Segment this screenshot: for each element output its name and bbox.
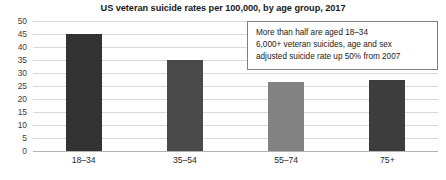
x-axis-tick-label: 75+ bbox=[337, 156, 438, 165]
y-axis-tick-label: 40 bbox=[18, 43, 27, 51]
bar bbox=[369, 80, 405, 152]
y-axis-tick-label: 5 bbox=[22, 134, 27, 142]
y-axis-tick-label: 20 bbox=[18, 95, 27, 103]
x-axis-tick-label: 18–34 bbox=[33, 156, 134, 165]
y-axis-tick-labels: 50454035302520151050 bbox=[0, 21, 31, 151]
bar bbox=[268, 82, 304, 151]
chart-title: US veteran suicide rates per 100,000, by… bbox=[0, 3, 446, 13]
x-axis-tick-label: 55–74 bbox=[236, 156, 337, 165]
annotation-line: 6,000+ veteran suicides, age and sex bbox=[256, 39, 430, 51]
bar bbox=[66, 34, 102, 151]
y-axis-tick-label: 45 bbox=[18, 30, 27, 38]
x-axis-tick-label: 35–54 bbox=[134, 156, 235, 165]
y-axis-tick-label: 35 bbox=[18, 56, 27, 64]
y-axis-tick-label: 0 bbox=[22, 147, 27, 155]
x-axis-line bbox=[33, 151, 438, 152]
y-axis-tick-label: 15 bbox=[18, 108, 27, 116]
annotation-line: adjusted suicide rate up 50% from 2007 bbox=[256, 51, 430, 63]
y-axis-tick-label: 30 bbox=[18, 69, 27, 77]
y-axis-tick-label: 10 bbox=[18, 121, 27, 129]
bar bbox=[167, 60, 203, 151]
annotation-callout: More than half are aged 18–34 6,000+ vet… bbox=[247, 21, 438, 70]
x-axis-tick-labels: 18–3435–5455–7475+ bbox=[33, 156, 438, 170]
y-axis-tick-label: 50 bbox=[18, 17, 27, 25]
bar-chart: US veteran suicide rates per 100,000, by… bbox=[0, 0, 446, 180]
y-axis-tick-label: 25 bbox=[18, 82, 27, 90]
annotation-line: More than half are aged 18–34 bbox=[256, 27, 430, 39]
